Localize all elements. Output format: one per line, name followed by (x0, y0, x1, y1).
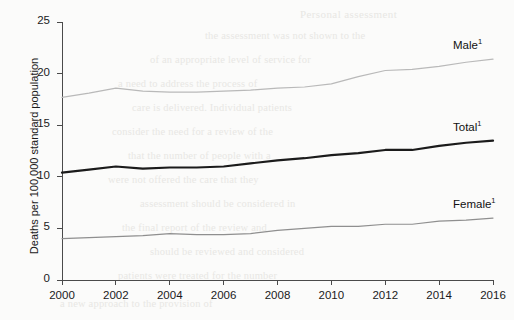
y-tick-label: 25 (24, 14, 50, 26)
y-tick-label: 5 (24, 220, 50, 232)
x-tick-label: 2002 (96, 289, 136, 301)
series-label-text: Total (453, 121, 477, 133)
plot-canvas (0, 0, 514, 320)
series-label-total: Total1 (453, 119, 481, 133)
y-tick-label: 0 (24, 272, 50, 284)
x-tick-label: 2000 (42, 289, 82, 301)
footnote-marker: 1 (477, 119, 481, 128)
x-tick-label: 2004 (150, 289, 190, 301)
footnote-marker: 1 (478, 37, 482, 46)
series-line-total (62, 141, 493, 173)
x-tick-label: 2014 (419, 289, 459, 301)
y-tick-label: 10 (24, 169, 50, 181)
footnote-marker: 1 (491, 196, 495, 205)
line-chart: Deaths per 100,000 standard population 0… (0, 0, 514, 320)
series-line-female (62, 218, 493, 239)
chart-page: Personal assessment the assessment was n… (0, 0, 514, 320)
y-tick-label: 15 (24, 117, 50, 129)
series-label-male: Male1 (453, 37, 482, 51)
x-tick-label: 2010 (311, 289, 351, 301)
series-label-text: Male (453, 39, 478, 51)
series-label-female: Female1 (453, 196, 496, 210)
x-tick-label: 2016 (473, 289, 513, 301)
x-tick-label: 2008 (258, 289, 298, 301)
series-line-male (62, 59, 493, 97)
y-tick-label: 20 (24, 66, 50, 78)
x-tick-label: 2012 (365, 289, 405, 301)
series-label-text: Female (453, 198, 491, 210)
x-tick-label: 2006 (204, 289, 244, 301)
